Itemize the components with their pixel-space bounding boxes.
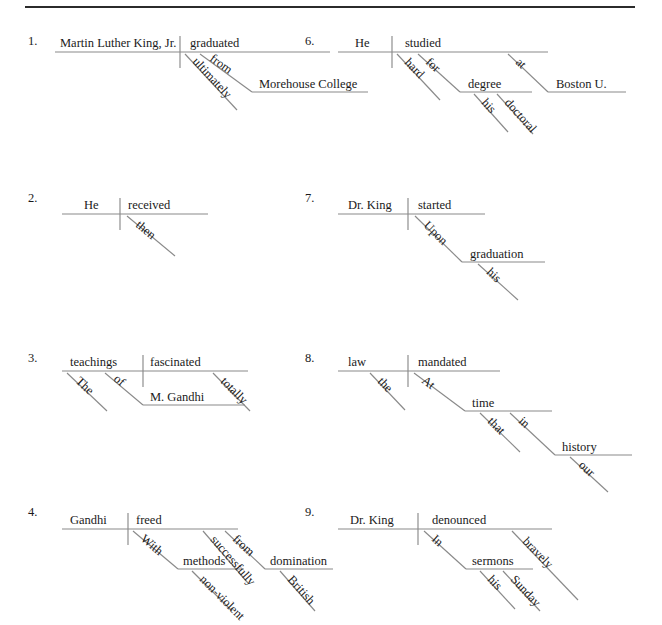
diagram-6-modifier-his: his [479,96,499,116]
diagram-6-modifier-doctoral: doctoral [502,96,540,136]
diagram-3-article-the: The [73,374,97,398]
diagram-9-verb: denounced [432,513,487,527]
diagram-6-prep-object-degree: degree [468,77,502,91]
diagram-8-number: 8. [305,351,314,365]
diagram-9-prep-object-sermons: sermons [472,554,514,568]
diagram-6-subject: He [355,36,370,50]
diagram-1-number: 1. [28,34,37,48]
diagram-4: 4. Gandhi freed With methods non-violent… [28,505,333,623]
diagram-4-prep-object-methods: methods [183,554,225,568]
diagram-9-modifier-bravely: bravely [520,534,557,571]
diagram-7-modifier-his: his [484,265,504,285]
diagram-7-number: 7. [305,191,314,205]
diagram-3-prep-object-m-gandhi: M. Gandhi [150,390,205,404]
worksheet-page: 1. Martin Luther King, Jr. graduated ult… [0,0,662,625]
diagram-7-prep-object-graduation: graduation [470,247,524,261]
diagram-3-number: 3. [28,351,37,365]
diagram-9-modifier-his: his [485,572,505,592]
diagram-7-subject: Dr. King [348,198,393,212]
diagram-8-article-the: the [375,374,396,395]
diagram-8-prep-slant-at [414,373,465,411]
diagram-3: 3. teachings fascinated The of M. Gandhi… [28,351,251,411]
diagram-4-modifier-non-violent: non-violent [197,572,248,623]
diagram-2-subject: He [84,198,99,212]
sentence-diagram-canvas: 1. Martin Luther King, Jr. graduated ult… [0,0,662,625]
diagram-4-prep-object-domination: domination [270,554,328,568]
diagram-9: 9. Dr. King denounced In sermons his Sun… [305,505,578,611]
diagram-9-subject: Dr. King [350,513,395,527]
diagram-7-preposition-upon: Upon [421,218,451,248]
diagram-8-verb: mandated [418,355,467,369]
diagram-4-preposition-with: With [138,532,166,559]
diagram-6-number: 6. [305,34,314,48]
diagram-7-verb: started [418,198,452,212]
diagram-9-preposition-in: In [429,532,447,550]
diagram-3-modifier-totally: totally [218,374,251,407]
diagram-9-modifier-sunday: Sunday [508,572,544,610]
diagram-6-preposition-at: at [513,55,530,72]
diagram-2-number: 2. [28,191,37,205]
diagram-1-subject: Martin Luther King, Jr. [60,36,176,50]
diagram-8-prep-object-time: time [472,396,495,410]
diagram-3-preposition-of: of [111,372,129,390]
diagram-1-verb: graduated [190,36,240,50]
diagram-8: 8. law mandated the At time that in hist… [305,351,632,492]
diagram-4-subject: Gandhi [70,513,107,527]
diagram-3-subject: teachings [70,355,117,369]
diagram-6-prep-object-boston-u: Boston U. [556,77,607,91]
diagram-8-modifier-our: our [576,458,598,480]
diagram-8-preposition-in: in [516,414,533,431]
diagram-3-verb: fascinated [150,355,201,369]
diagram-1-prep-object-morehouse-college: Morehouse College [259,77,358,91]
diagram-4-modifier-british: British [285,573,319,608]
diagram-7: 7. Dr. King started Upon graduation his [305,191,545,300]
diagram-8-subject: law [348,355,366,369]
diagram-1: 1. Martin Luther King, Jr. graduated ult… [28,34,368,110]
diagram-2-verb: received [128,198,171,212]
diagram-4-verb: freed [136,513,162,527]
diagram-2: 2. He received then [28,191,208,256]
diagram-6-verb: studied [405,36,442,50]
diagram-9-number: 9. [305,505,314,519]
diagram-8-prep-object-history: history [562,440,597,454]
diagram-4-number: 4. [28,505,37,519]
diagram-8-modifier-that: that [485,414,509,438]
